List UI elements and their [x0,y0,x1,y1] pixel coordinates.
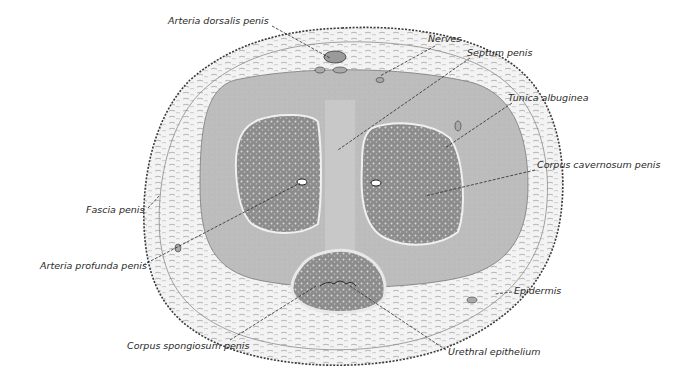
label-tunica-albuginea: Tunica albuginea [508,93,588,103]
label-corpus-spongiosum-penis: Corpus spongiosum penis [127,341,249,351]
label-epidermis: Epidermis [514,286,561,296]
arteria-profunda-left [297,179,307,185]
cross-section-illustration [0,0,684,376]
corpus-cavernosum-left [236,115,321,233]
label-arteria-profunda-penis: Arteria profunda penis [40,261,147,271]
label-fascia-penis: Fascia penis [86,205,144,215]
label-corpus-cavernosum-penis: Corpus cavernosum penis [537,160,660,170]
label-nerves: Nerves [428,34,461,44]
label-urethral-epithelium: Urethral epithelium [448,347,541,357]
septum-penis-region [325,100,355,270]
label-septum-penis: Septum penis [467,48,532,58]
label-arteria-dorsalis-penis: Arteria dorsalis penis [168,16,269,26]
arteria-profunda-right [371,180,381,186]
